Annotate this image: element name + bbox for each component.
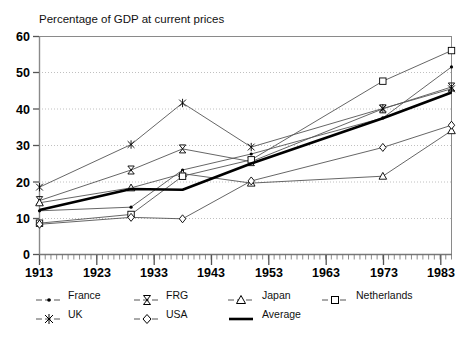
x-tick-1963: 1963	[312, 266, 340, 280]
data-point-triangle	[379, 172, 387, 179]
data-point-square	[448, 47, 454, 53]
legend-marker-netherlands	[322, 294, 348, 306]
data-point-square	[380, 78, 386, 84]
series-france	[38, 65, 453, 212]
legend-label-average: Average	[262, 308, 301, 320]
data-point-cross	[179, 99, 186, 107]
x-axis-labels: 1913 1923 1933 1943 1953 1963 1973 1983	[25, 266, 455, 280]
x-tick-1943: 1943	[197, 266, 225, 280]
x-tick-1923: 1923	[83, 266, 111, 280]
data-point-cross	[448, 85, 455, 93]
x-tick-1983: 1983	[427, 266, 455, 280]
data-point-dot	[129, 206, 132, 209]
series-usa	[36, 121, 454, 228]
x-tick-1933: 1933	[140, 266, 168, 280]
data-point-dot	[450, 65, 453, 68]
legend-label-usa: USA	[166, 308, 188, 320]
data-point-cross	[248, 143, 255, 151]
legend-label-netherlands: Netherlands	[356, 289, 413, 301]
y-tick-40: 40	[16, 103, 30, 117]
data-series-layer	[36, 47, 456, 228]
y-tick-20: 20	[16, 176, 30, 190]
x-tick-1953: 1953	[255, 266, 283, 280]
data-point-cross	[36, 183, 43, 191]
legend-label-uk: UK	[68, 308, 83, 320]
data-point-diamond	[448, 121, 454, 129]
y-tick-10: 10	[16, 212, 30, 226]
legend-label-france: France	[68, 289, 101, 301]
data-point-square	[179, 173, 185, 179]
legend-marker-frg	[134, 294, 160, 306]
data-point-diamond	[380, 143, 386, 151]
x-tick-1973: 1973	[370, 266, 398, 280]
series-netherlands	[36, 47, 454, 226]
x-tick-1913: 1913	[25, 266, 53, 280]
legend-marker-japan	[228, 294, 254, 306]
legend-marker-average	[228, 313, 254, 325]
y-tick-0: 0	[23, 248, 30, 262]
data-point-bowtie	[128, 166, 134, 174]
y-tick-30: 30	[16, 139, 30, 153]
legend-label-frg: FRG	[166, 289, 188, 301]
data-point-cross	[128, 140, 135, 148]
legend-marker-uk	[36, 313, 62, 325]
y-axis-labels: 60 50 40 30 20 10 0	[16, 30, 30, 262]
x-axis-minor-ticks	[40, 255, 452, 260]
legend-marker-france	[36, 294, 62, 306]
y-tick-60: 60	[16, 30, 30, 44]
legend-label-japan: Japan	[262, 289, 291, 301]
chart-figure: Percentage of GDP at current prices	[0, 0, 472, 339]
data-point-diamond	[179, 215, 185, 223]
legend-marker-usa	[134, 313, 160, 325]
y-tick-50: 50	[16, 66, 30, 80]
data-point-dot	[250, 152, 253, 155]
series-uk	[36, 85, 455, 192]
